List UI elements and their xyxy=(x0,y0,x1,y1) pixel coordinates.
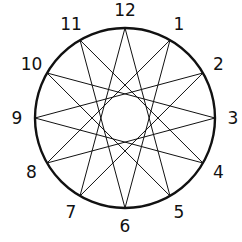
chord-line xyxy=(47,40,170,163)
chord-line xyxy=(35,118,203,163)
point-label: 11 xyxy=(60,14,82,34)
chord-line xyxy=(125,28,170,196)
star-diagram: 121234567891011 xyxy=(0,0,242,242)
point-label: 6 xyxy=(120,216,131,236)
point-label: 7 xyxy=(66,202,77,222)
chord-line xyxy=(80,40,203,163)
point-label: 12 xyxy=(114,0,136,20)
chord-line xyxy=(80,73,203,196)
point-label: 2 xyxy=(213,54,224,74)
chord-line xyxy=(125,40,170,208)
point-label: 3 xyxy=(228,108,239,128)
point-labels: 121234567891011 xyxy=(12,0,239,236)
chord-line xyxy=(80,40,125,208)
point-label: 4 xyxy=(213,162,224,182)
point-label: 8 xyxy=(26,162,37,182)
chord-line xyxy=(80,28,125,196)
point-label: 10 xyxy=(21,54,43,74)
point-label: 9 xyxy=(12,108,23,128)
star-polygon-figure: 121234567891011 xyxy=(0,0,242,242)
outer-circle xyxy=(35,28,215,208)
chord-line xyxy=(47,73,170,196)
chord-line xyxy=(47,118,215,163)
chord-line xyxy=(35,73,203,118)
chord-line xyxy=(47,73,215,118)
point-label: 5 xyxy=(174,202,185,222)
point-label: 1 xyxy=(174,14,185,34)
